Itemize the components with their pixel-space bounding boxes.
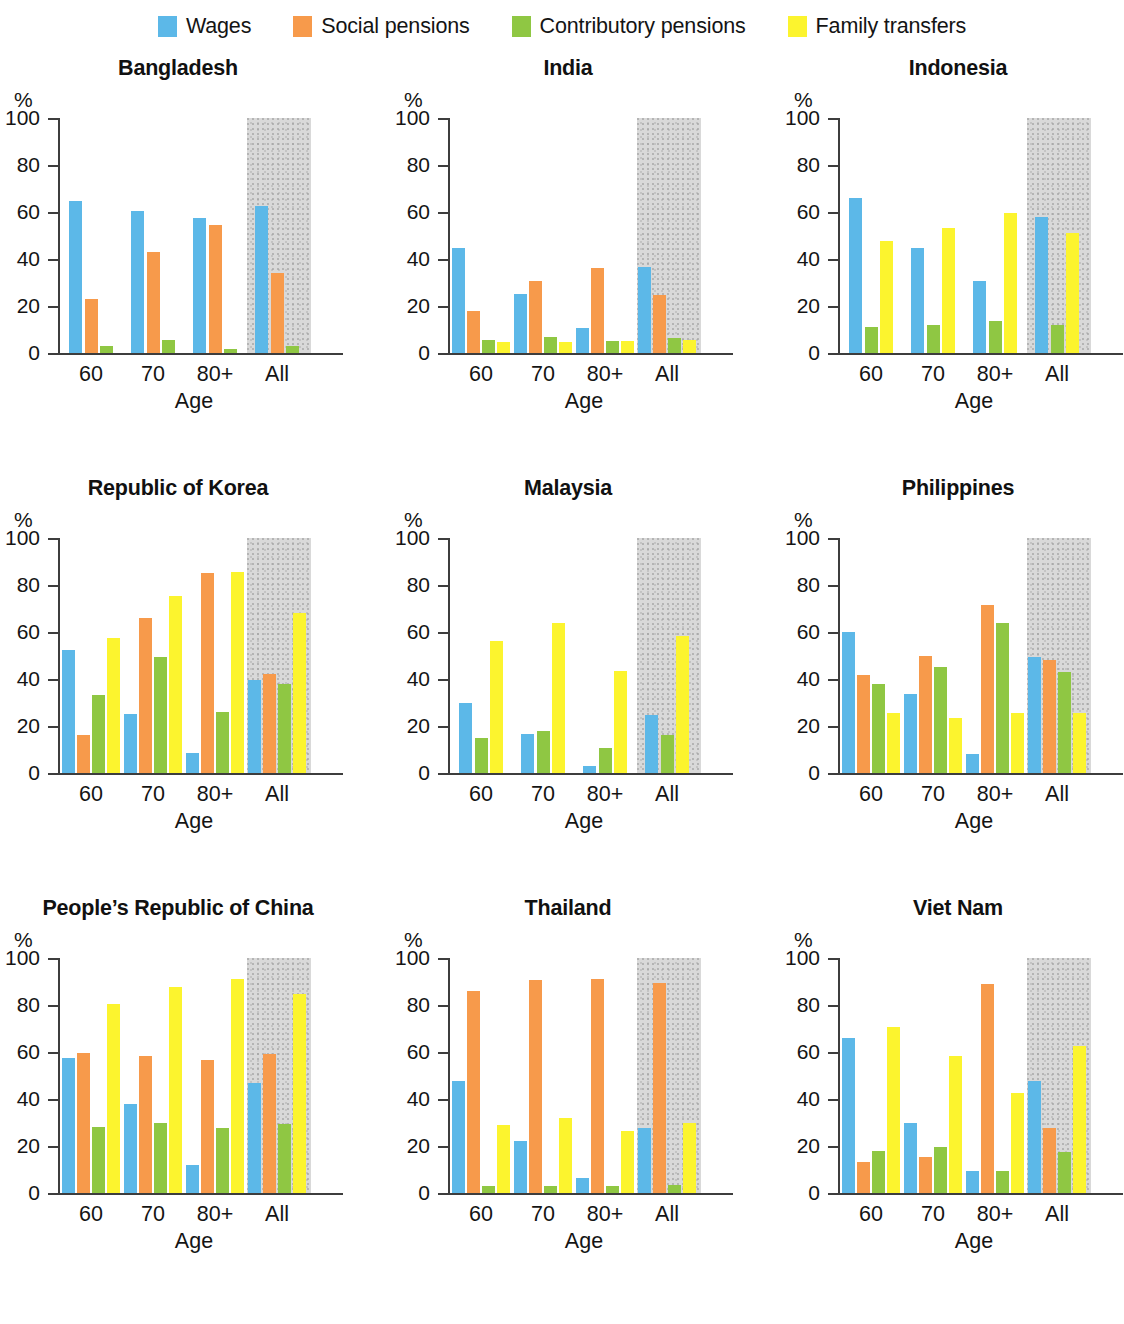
bar-bangladesh-70-contributory-pensions [162,340,175,353]
bar-bangladesh-70-social-pensions [147,252,160,353]
bar-malaysia-70-wages [521,734,534,773]
bar-group-All: All [634,118,696,353]
y-axis-tick-0: 0 [48,1193,58,1195]
bar-thailand-70-wages [514,1141,527,1193]
bar-thailand-80plus-family-transfers [621,1131,634,1193]
bar-bangladesh-80plus-wages [193,218,206,353]
bar-republic-of-korea-70-social-pensions [139,618,152,773]
y-axis-tick-label-20: 20 [797,715,820,736]
legend-label-social: Social pensions [321,14,469,39]
bar-people-s-republic-of-china-70-family-transfers [169,987,182,1193]
y-axis-tick-label-80: 80 [407,994,430,1015]
bar-people-s-republic-of-china-60-social-pensions [77,1053,90,1193]
legend-label-contributory: Contributory pensions [540,14,746,39]
y-axis-tick-label-100: 100 [785,107,820,128]
bar-group-All: All [244,538,306,773]
bar-bangladesh-80plus-social-pensions [209,225,222,353]
plot-area: 100806040200607080+All [448,118,720,353]
bar-thailand-60-family-transfers [497,1125,510,1193]
bar-indonesia-60-family-transfers [880,241,893,353]
bar-viet-nam-All-contributory-pensions [1058,1152,1071,1193]
bar-india-70-contributory-pensions [544,337,557,353]
chart-legend: WagesSocial pensionsContributory pension… [0,0,1124,46]
plot-area: 100806040200607080+All [448,538,720,773]
bar-thailand-60-contributory-pensions [482,1186,495,1193]
y-axis-tick-label-100: 100 [5,107,40,128]
y-axis-tick-label-40: 40 [407,668,430,689]
bar-people-s-republic-of-china-All-contributory-pensions [278,1124,291,1193]
bar-group-80plus: 80+ [572,118,634,353]
bar-group-80plus: 80+ [962,958,1024,1193]
bar-group-70: 70 [120,118,182,353]
bar-people-s-republic-of-china-80plus-contributory-pensions [216,1128,229,1193]
y-axis-tick-label-100: 100 [5,947,40,968]
bar-republic-of-korea-60-family-transfers [107,638,120,773]
bar-philippines-80plus-wages [966,754,979,773]
bar-viet-nam-60-social-pensions [857,1162,870,1193]
bar-group-60: 60 [448,958,510,1193]
y-axis-tick-0: 0 [438,1193,448,1195]
panel-title-india: India [390,56,746,81]
y-axis-tick-label-80: 80 [17,574,40,595]
x-axis-tick-label-70: 70 [141,1202,165,1227]
x-axis-tick-label-All: All [265,782,289,807]
x-axis-title: Age [838,809,1110,834]
bar-group-60: 60 [58,538,120,773]
y-axis-tick-label-60: 60 [407,1041,430,1062]
bar-bangladesh-All-wages [255,206,268,353]
bar-indonesia-70-wages [911,248,924,353]
bar-thailand-80plus-contributory-pensions [606,1186,619,1193]
bar-bangladesh-70-wages [131,211,144,353]
bar-group-60: 60 [838,118,900,353]
bar-group-All: All [1024,958,1086,1193]
bar-group-60: 60 [838,958,900,1193]
y-axis-tick-40: 40 [828,679,838,681]
y-axis-tick-80: 80 [438,1005,448,1007]
y-axis-tick-label-20: 20 [407,715,430,736]
x-axis-title: Age [448,809,720,834]
bar-republic-of-korea-70-wages [124,714,137,773]
legend-swatch-contributory [512,16,531,37]
y-axis-tick-label-60: 60 [797,621,820,642]
bar-republic-of-korea-60-social-pensions [77,735,90,773]
bar-group-80plus: 80+ [572,538,634,773]
y-axis-tick-100: 100 [828,538,838,540]
y-axis-tick-20: 20 [828,306,838,308]
y-axis-tick-label-20: 20 [797,1135,820,1156]
bar-india-All-contributory-pensions [668,338,681,353]
y-axis-tick-label-80: 80 [17,154,40,175]
bar-philippines-All-contributory-pensions [1058,672,1071,773]
bar-india-80plus-wages [576,328,589,353]
bar-group-60: 60 [838,538,900,773]
bar-people-s-republic-of-china-80plus-family-transfers [231,979,244,1193]
x-axis-title: Age [838,389,1110,414]
x-axis-tick-label-80plus: 80+ [197,782,233,807]
chart-panel-malaysia: Malaysia%100806040200607080+AllAge [390,466,780,886]
y-axis-tick-label-40: 40 [17,1088,40,1109]
y-axis-tick-100: 100 [438,958,448,960]
y-axis-tick-60: 60 [438,1052,448,1054]
legend-label-wages: Wages [186,14,251,39]
bar-philippines-70-wages [904,694,917,773]
bar-india-All-family-transfers [683,340,696,353]
y-axis-tick-label-0: 0 [418,1182,430,1203]
bar-thailand-60-social-pensions [467,991,480,1193]
chart-panel-viet-nam: Viet Nam%100806040200607080+AllAge [780,886,1124,1306]
y-axis-tick-100: 100 [828,958,838,960]
bar-indonesia-70-family-transfers [942,228,955,353]
panel-title-indonesia: Indonesia [780,56,1124,81]
bar-republic-of-korea-60-wages [62,650,75,773]
x-axis-tick-label-70: 70 [531,1202,555,1227]
x-axis-tick-label-All: All [265,1202,289,1227]
bar-viet-nam-60-wages [842,1038,855,1193]
x-axis-tick-label-70: 70 [141,362,165,387]
bar-republic-of-korea-All-family-transfers [293,613,306,773]
y-axis-tick-label-40: 40 [797,1088,820,1109]
chart-panel-india: India%100806040200607080+AllAge [390,46,780,466]
y-axis-tick-40: 40 [48,679,58,681]
x-axis-tick-label-80plus: 80+ [587,362,623,387]
bar-thailand-80plus-wages [576,1178,589,1193]
y-axis-tick-label-40: 40 [17,248,40,269]
bar-group-80plus: 80+ [182,958,244,1193]
y-axis-tick-label-20: 20 [17,715,40,736]
